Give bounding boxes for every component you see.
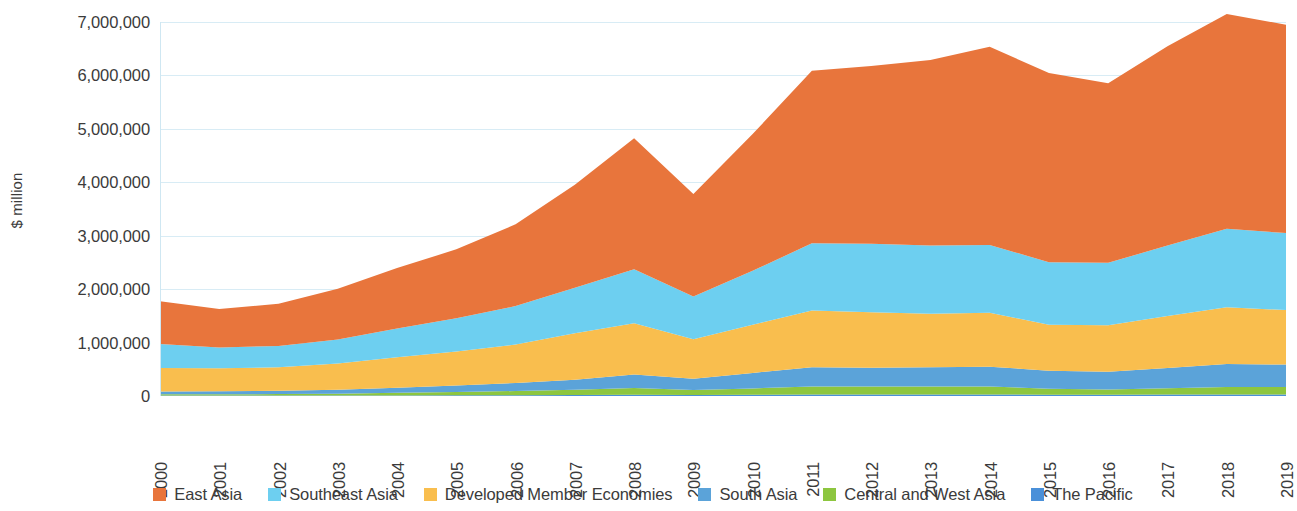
- legend-item-label: Central and West Asia: [844, 485, 1005, 504]
- legend-swatch-icon: [823, 488, 836, 501]
- area-series-group: [160, 14, 1286, 396]
- y-axis-title-label: $ million: [9, 172, 26, 228]
- legend-item[interactable]: East Asia: [153, 485, 242, 504]
- chart-legend: East AsiaSoutheast AsiaDeveloped Member …: [0, 478, 1286, 511]
- legend-swatch-icon: [153, 488, 166, 501]
- legend-item[interactable]: Southeast Asia: [268, 485, 398, 504]
- y-axis-tick-label: 7,000,000: [77, 13, 150, 32]
- y-axis-tick-label: 1,000,000: [77, 333, 150, 352]
- legend-item-label: The Pacific: [1052, 485, 1133, 504]
- legend-swatch-icon: [268, 488, 281, 501]
- y-axis-title: $ million: [0, 0, 34, 400]
- legend-swatch-icon: [1031, 488, 1044, 501]
- legend-item-label: Southeast Asia: [289, 485, 398, 504]
- legend-item-label: South Asia: [719, 485, 797, 504]
- legend-item-label: East Asia: [174, 485, 242, 504]
- legend-item-label: Developed Member Economies: [445, 485, 673, 504]
- y-axis-tick-label: 4,000,000: [77, 173, 150, 192]
- legend-item[interactable]: The Pacific: [1031, 485, 1133, 504]
- legend-swatch-icon: [424, 488, 437, 501]
- plot-svg: [160, 0, 1286, 400]
- legend-item[interactable]: Developed Member Economies: [424, 485, 673, 504]
- y-axis-tick-label: 2,000,000: [77, 280, 150, 299]
- legend-swatch-icon: [698, 488, 711, 501]
- y-axis-tick-label: 0: [141, 387, 150, 406]
- y-axis-tick-label: 5,000,000: [77, 119, 150, 138]
- y-axis-tick-label: 6,000,000: [77, 66, 150, 85]
- y-axis-tick-labels: 01,000,0002,000,0003,000,0004,000,0005,0…: [34, 0, 160, 400]
- y-axis-tick-label: 3,000,000: [77, 226, 150, 245]
- legend-item[interactable]: Central and West Asia: [823, 485, 1005, 504]
- plot-area: [160, 0, 1286, 400]
- legend-item[interactable]: South Asia: [698, 485, 797, 504]
- x-axis-tick-labels: 2000200120022003200420052006200720082009…: [160, 400, 1286, 470]
